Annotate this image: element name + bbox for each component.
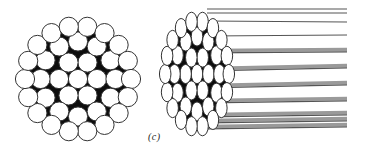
wire-circle — [78, 17, 97, 36]
wire-circle — [42, 24, 61, 43]
wire-ellipse — [223, 64, 235, 83]
wire-circle — [95, 115, 114, 134]
wire-ellipse — [197, 117, 209, 136]
wire-ellipse — [207, 110, 219, 129]
wire-ellipse — [186, 12, 198, 31]
strand-cross-section — [15, 17, 140, 141]
wire-circle — [59, 122, 78, 141]
wire-ellipse — [161, 83, 173, 102]
strand-perspective-face — [159, 12, 234, 136]
figure-caption: (c) — [148, 131, 161, 142]
wire-ellipse — [197, 12, 209, 31]
wire-circle — [19, 88, 38, 107]
wire-circle — [49, 69, 68, 88]
wire-ellipse — [159, 64, 171, 83]
wire-ellipse — [175, 19, 187, 38]
wire-circle — [68, 69, 87, 88]
wire-circle — [78, 122, 97, 141]
wire-circle — [59, 17, 78, 36]
wire-strand-diagram — [0, 0, 371, 153]
wire-circle — [87, 69, 106, 88]
wire-circle — [15, 69, 34, 88]
wire-circle — [118, 51, 137, 70]
wire-circle — [121, 69, 140, 88]
wire-ellipse — [186, 117, 198, 136]
wire-ellipse — [221, 46, 233, 65]
